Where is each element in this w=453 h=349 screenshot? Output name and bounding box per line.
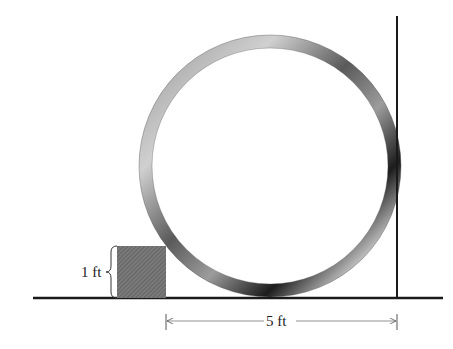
diagram-svg: 1 ft 5 ft <box>0 0 453 349</box>
box-height-label: 1 ft <box>81 264 102 280</box>
height-brace <box>106 246 117 298</box>
box-block <box>117 246 166 298</box>
distance-label: 5 ft <box>266 313 287 329</box>
loop-ring <box>139 35 401 297</box>
diagram-canvas: 1 ft 5 ft <box>0 0 453 349</box>
